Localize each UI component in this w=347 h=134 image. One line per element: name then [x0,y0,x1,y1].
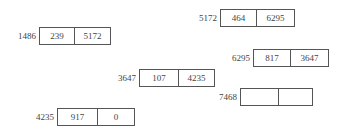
node-address: 5172 [184,13,217,23]
node-box: 817 3647 [253,49,329,67]
next-pointer-field: 4235 [179,70,214,86]
next-pointer-field [279,89,312,105]
data-field [241,89,279,105]
node-address: 1486 [3,31,36,41]
data-field: 917 [58,109,98,125]
node-box: 107 4235 [139,69,215,87]
node-box [240,88,313,106]
data-field: 817 [254,50,291,66]
node-box: 464 6295 [220,9,295,27]
data-field: 107 [140,70,179,86]
node-box: 917 0 [57,108,135,126]
next-pointer-field: 0 [98,109,134,125]
next-pointer-field: 3647 [291,50,328,66]
data-field: 464 [221,10,257,26]
next-pointer-field: 5172 [75,28,110,44]
node-box: 239 5172 [39,27,111,45]
node-address: 7468 [204,92,237,102]
node-address: 6295 [217,53,250,63]
data-field: 239 [40,28,75,44]
node-address: 4235 [21,112,54,122]
next-pointer-field: 6295 [257,10,294,26]
node-address: 3647 [103,73,136,83]
